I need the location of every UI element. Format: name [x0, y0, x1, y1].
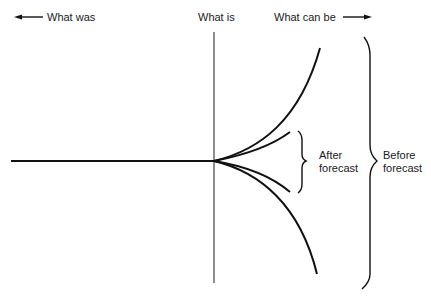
- after-forecast-brace: [298, 131, 306, 193]
- what-can-be-label: What can be: [274, 11, 336, 24]
- before-forecast-line-1: Before: [383, 149, 422, 162]
- after-forecast-label: After forecast: [319, 149, 358, 175]
- after-forecast-line-2: forecast: [319, 162, 358, 175]
- upper-outer-curve: [214, 48, 320, 161]
- what-is-label: What is: [198, 11, 235, 24]
- before-forecast-brace: [362, 37, 377, 289]
- before-forecast-line-2: forecast: [383, 162, 422, 175]
- before-forecast-label: Before forecast: [383, 149, 422, 175]
- after-forecast-line-1: After: [319, 149, 358, 162]
- arrow-left-icon: [14, 15, 43, 20]
- arrow-right-icon: [343, 15, 372, 20]
- forecast-diagram: [0, 0, 431, 297]
- what-was-label: What was: [47, 11, 95, 24]
